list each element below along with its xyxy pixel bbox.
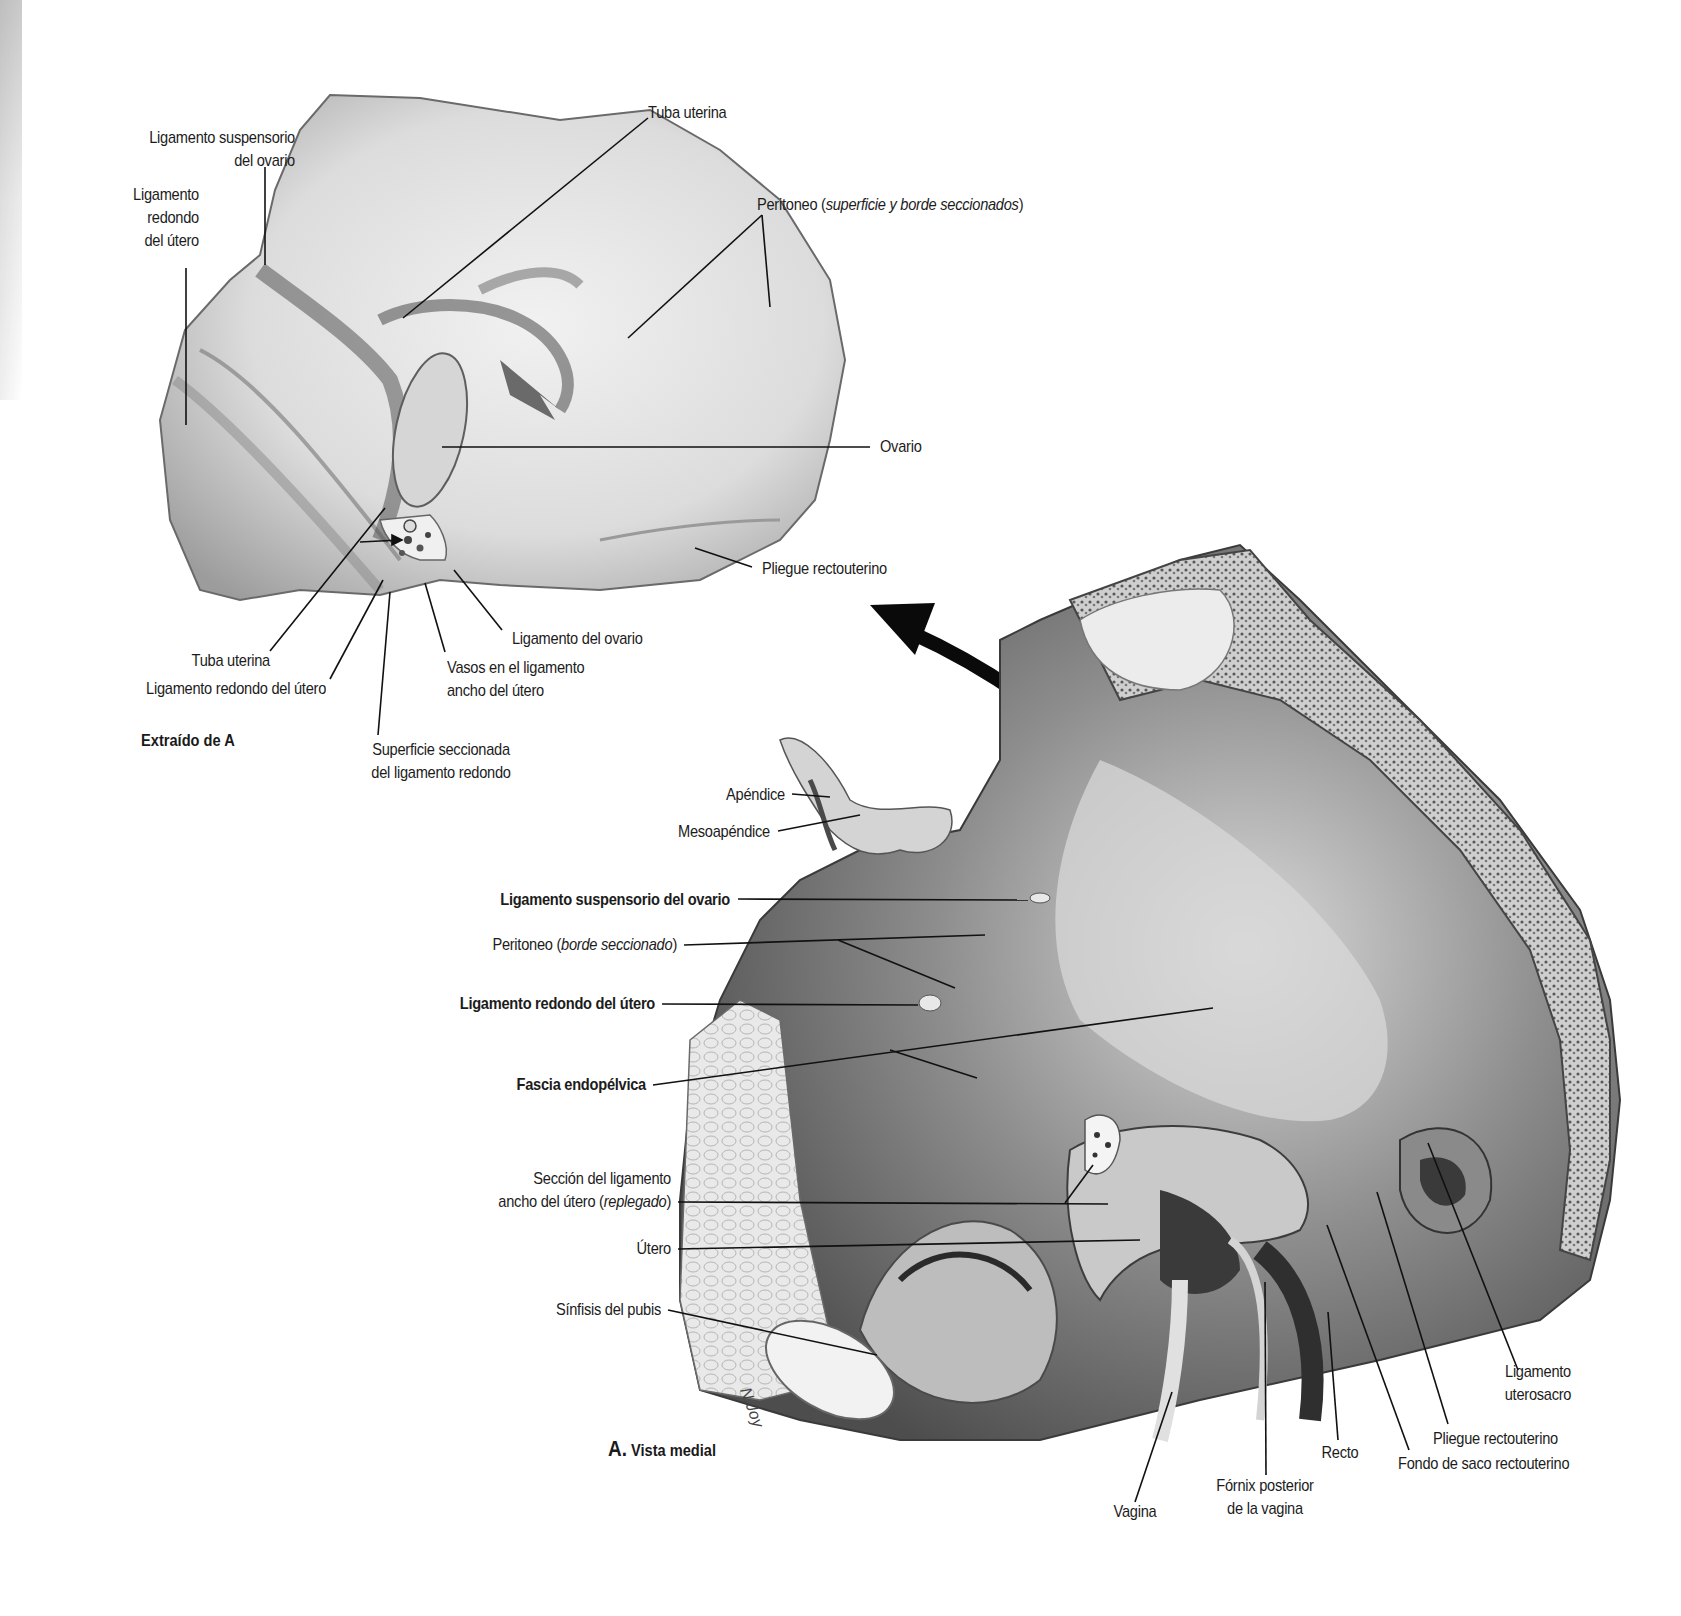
label-ligamento-uterosacro: Ligamento uterosacro: [1486, 1360, 1589, 1406]
label-inset-ligamento-redondo-bottom: Ligamento redondo del útero: [123, 677, 326, 700]
label-inset-superficie-seccionada: Superficie seccionada del ligamento redo…: [351, 738, 532, 784]
label-inset-tuba-uterina-bottom: Tuba uterina: [167, 649, 270, 672]
label-italic: replegado: [604, 1192, 667, 1211]
label-ligamento-redondo-utero: Ligamento redondo del útero: [401, 992, 655, 1015]
label-line: Fórnix posterior: [1201, 1474, 1330, 1497]
anatomy-illustrations: N.Joy: [0, 0, 1681, 1616]
label-line: de la vagina: [1201, 1497, 1330, 1520]
label-italic: borde seccionado: [561, 935, 672, 954]
inset-caption: Extraído de A: [141, 731, 235, 751]
label-fondo-saco-rectouterino: Fondo de saco rectouterino: [1398, 1452, 1569, 1475]
label-line: Ligamento suspensorio: [132, 126, 295, 149]
label-inset-peritoneo: Peritoneo (superficie y borde seccionado…: [757, 193, 1023, 216]
label-line: del útero: [113, 229, 199, 252]
label-line: del ligamento redondo: [351, 761, 532, 784]
label-line: Ligamento: [1486, 1360, 1589, 1383]
label-line: redondo: [113, 206, 199, 229]
label-text: Peritoneo (: [492, 935, 561, 954]
label-seccion-ligamento-ancho: Sección del ligamento ancho del útero (r…: [438, 1167, 671, 1213]
label-apendice: Apéndice: [626, 783, 785, 806]
caption-text: Vista medial: [631, 1441, 716, 1460]
label-line: ancho del útero (replegado): [438, 1190, 671, 1213]
label-line: del ovario: [132, 149, 295, 172]
label-text: Peritoneo (: [757, 195, 826, 214]
pelvis-medial-view: N.Joy: [680, 545, 1620, 1440]
label-text: ): [666, 1192, 671, 1211]
label-text: ): [1019, 195, 1024, 214]
label-line: Ligamento: [113, 183, 199, 206]
label-fornix-posterior-vagina: Fórnix posterior de la vagina: [1201, 1474, 1330, 1520]
label-vagina: Vagina: [1088, 1500, 1183, 1523]
label-fascia-endopelvica: Fascia endopélvica: [452, 1073, 646, 1096]
label-line: ancho del útero: [447, 679, 584, 702]
label-italic: superficie y borde seccionados: [826, 195, 1019, 214]
label-inset-ligamento-suspensorio-ovario: Ligamento suspensorio del ovario: [132, 126, 295, 172]
caption-letter: A.: [608, 1436, 627, 1461]
main-caption: A. Vista medial: [608, 1436, 716, 1462]
label-pliegue-rectouterino: Pliegue rectouterino: [1433, 1427, 1558, 1450]
label-inset-pliegue-rectouterino: Pliegue rectouterino: [762, 557, 887, 580]
label-line: Sección del ligamento: [438, 1167, 671, 1190]
label-line: Vasos en el ligamento: [447, 656, 584, 679]
label-line: Superficie seccionada: [351, 738, 532, 761]
label-mesoapendice: Mesoapéndice: [607, 820, 770, 843]
label-ligamento-suspensorio-ovario: Ligamento suspensorio del ovario: [429, 888, 730, 911]
label-peritoneo-borde: Peritoneo (borde seccionado): [422, 933, 677, 956]
label-text: ): [672, 935, 677, 954]
label-inset-tuba-uterina-top: Tuba uterina: [648, 101, 726, 124]
label-sinfisis-pubis: Sínfisis del pubis: [505, 1298, 661, 1321]
label-line: uterosacro: [1486, 1383, 1589, 1406]
label-utero: Útero: [576, 1237, 671, 1260]
label-inset-ligamento-redondo-utero: Ligamento redondo del útero: [113, 183, 199, 252]
label-recto: Recto: [1306, 1441, 1375, 1464]
label-inset-ovario: Ovario: [880, 435, 922, 458]
label-inset-vasos-ligamento-ancho: Vasos en el ligamento ancho del útero: [447, 656, 584, 702]
label-inset-ligamento-del-ovario: Ligamento del ovario: [512, 627, 643, 650]
label-text: ancho del útero (: [498, 1192, 603, 1211]
